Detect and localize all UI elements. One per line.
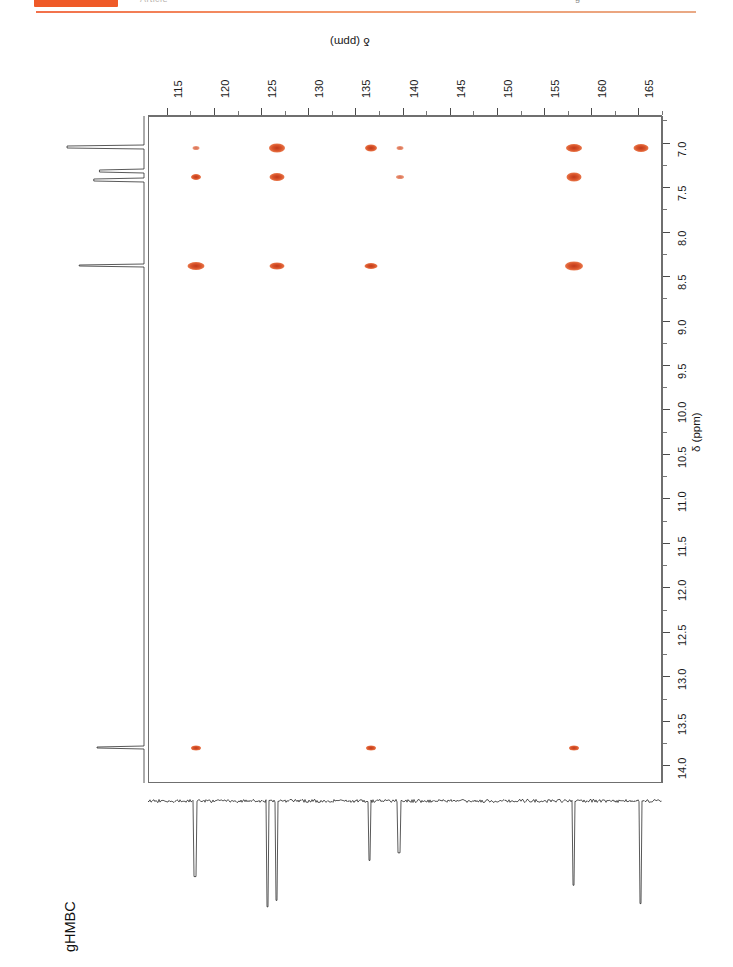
proton-axis-tick [663, 454, 670, 455]
carbon-axis-minor-tick [285, 111, 286, 115]
proton-axis-tick [663, 721, 670, 722]
proton-axis-tick-label: 9.5 [676, 364, 688, 379]
cross-peak [191, 746, 201, 751]
proton-axis-tick [663, 187, 670, 188]
carbon-axis-minor-tick [662, 111, 663, 115]
proton-axis-minor-tick [663, 743, 667, 744]
proton-axis-line [662, 116, 663, 783]
carbon-axis-tick-label: 160 [596, 80, 608, 98]
cross-peak [569, 746, 579, 751]
proton-axis-minor-tick [663, 298, 667, 299]
proton-axis-tick-label: 13.0 [676, 669, 688, 690]
cross-peak [270, 173, 285, 181]
proton-axis-tick-label: 7.5 [676, 186, 688, 201]
carbon-axis-tick [544, 108, 545, 115]
carbon-axis-tick-label: 140 [408, 80, 420, 98]
proton-axis-minor-tick [663, 565, 667, 566]
proton-axis-tick-label: 11.0 [676, 492, 688, 513]
proton-axis-tick-label: 10.5 [676, 447, 688, 468]
carbon-axis-tick-label: 155 [549, 80, 561, 98]
carbon-axis-tick-label: 145 [455, 80, 467, 98]
proton-axis-tick [663, 232, 670, 233]
proton-axis-minor-tick [663, 343, 667, 344]
carbon-axis-tick [214, 108, 215, 115]
proton-projection-path [67, 116, 144, 783]
proton-axis-tick [663, 543, 670, 544]
cross-peak [396, 146, 403, 150]
carbon-projection-path [148, 799, 662, 906]
proton-axis-minor-tick [663, 654, 667, 655]
carbon-axis-tick [638, 108, 639, 115]
proton-axis-minor-tick [663, 699, 667, 700]
cross-peak [269, 144, 285, 153]
proton-axis-tick [663, 409, 670, 410]
carbon-axis-tick [261, 108, 262, 115]
carbon-axis-tick [355, 108, 356, 115]
carbon-axis-tick-label: 120 [219, 80, 231, 98]
proton-axis-tick-label: 13.5 [676, 713, 688, 734]
cross-peak-layer [149, 117, 661, 782]
carbon-axis-tick [450, 108, 451, 115]
nmr-spectrum-figure: δ (ppm) δ (ppm) gHMBC 115120125130135140… [0, 0, 733, 967]
carbon-axis-tick-label: 115 [172, 80, 184, 98]
cross-peak [567, 173, 582, 182]
proton-axis-minor-tick [663, 120, 667, 121]
carbon-axis-minor-tick [521, 111, 522, 115]
cross-peak [634, 144, 649, 152]
proton-axis-tick [663, 765, 670, 766]
proton-axis-tick-label: 9.0 [676, 319, 688, 334]
cross-peak [193, 146, 200, 150]
cross-peak [270, 263, 285, 270]
carbon-axis-tick [308, 108, 309, 115]
carbon-axis-minor-tick [332, 111, 333, 115]
carbon-axis-tick-label: 130 [313, 80, 325, 98]
proton-axis-minor-tick [663, 521, 667, 522]
proton-axis [662, 116, 674, 783]
proton-axis-tick [663, 498, 670, 499]
cross-peak [366, 746, 376, 751]
cross-peak [396, 175, 404, 179]
carbon-axis-minor-tick [473, 111, 474, 115]
cross-peak [565, 262, 583, 271]
proton-axis-tick [663, 321, 670, 322]
proton-projection-trace [60, 116, 148, 783]
carbon-projection-trace [148, 783, 662, 915]
proton-axis-minor-tick [663, 432, 667, 433]
carbon-axis-minor-tick [190, 111, 191, 115]
proton-axis-minor-tick [663, 209, 667, 210]
proton-axis-tick-label: 8.0 [676, 230, 688, 245]
spectrum-plot-area[interactable] [148, 116, 662, 783]
proton-axis-tick-label: 10.0 [676, 402, 688, 423]
cross-peak [364, 263, 377, 269]
proton-axis-tick-label: 12.0 [676, 580, 688, 601]
carbon-axis-tick-label: 135 [360, 80, 372, 98]
cross-peak [566, 144, 582, 152]
experiment-type-label: gHMBC [62, 901, 78, 952]
carbon-axis [148, 104, 662, 116]
proton-axis-minor-tick [663, 610, 667, 611]
carbon-axis-minor-tick [426, 111, 427, 115]
carbon-axis-minor-tick [238, 111, 239, 115]
proton-axis-tick-label: 7.0 [676, 141, 688, 156]
proton-axis-minor-tick [663, 387, 667, 388]
proton-axis-tick-label: 8.5 [676, 275, 688, 290]
carbon-axis-tick [167, 108, 168, 115]
carbon-axis-title: δ (ppm) [330, 36, 370, 48]
carbon-axis-tick [591, 108, 592, 115]
proton-axis-tick [663, 632, 670, 633]
proton-axis-minor-tick [663, 476, 667, 477]
carbon-axis-tick-label: 150 [502, 80, 514, 98]
carbon-axis-tick-label: 165 [643, 80, 655, 98]
cross-peak [191, 174, 201, 180]
carbon-axis-tick-label: 125 [266, 80, 278, 98]
proton-axis-tick [663, 365, 670, 366]
proton-axis-tick-label: 11.5 [676, 536, 688, 557]
carbon-axis-tick [403, 108, 404, 115]
proton-axis-title: δ (ppm) [690, 412, 702, 452]
proton-axis-tick [663, 587, 670, 588]
proton-axis-tick-label: 14.0 [676, 758, 688, 779]
proton-axis-tick [663, 276, 670, 277]
proton-axis-tick-label: 12.5 [676, 624, 688, 645]
carbon-axis-minor-tick [568, 111, 569, 115]
carbon-axis-minor-tick [379, 111, 380, 115]
